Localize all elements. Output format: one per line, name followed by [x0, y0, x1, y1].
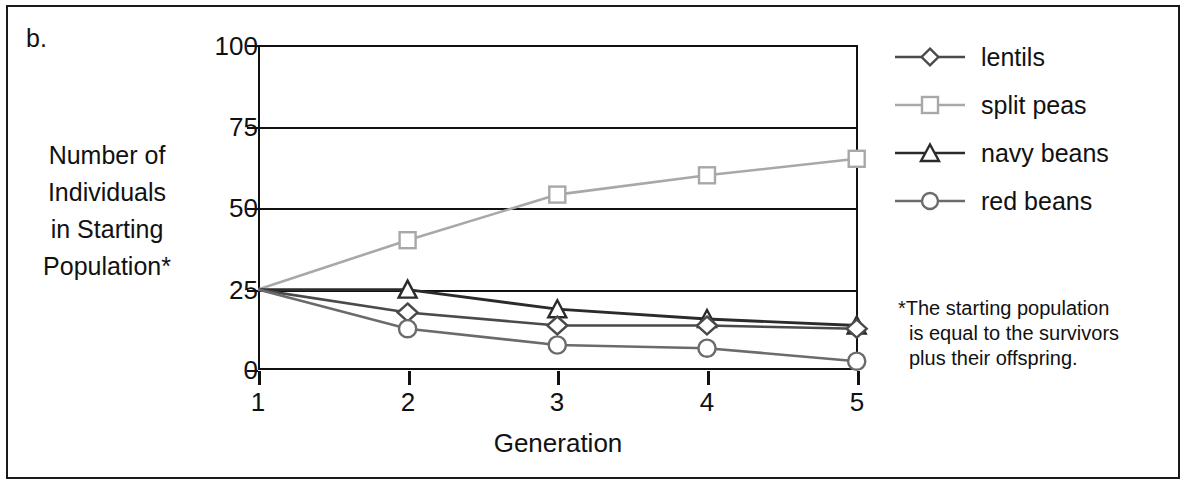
y-tick-mark-50 [247, 208, 258, 210]
legend-item-red-beans[interactable]: red beans [893, 177, 1163, 225]
figure-panel: b. Number of Individuals in Starting Pop… [0, 0, 1186, 486]
legend-label-red-beans: red beans [967, 187, 1092, 216]
x-tick-label-4: 4 [684, 387, 730, 418]
legend-label-split-peas: split peas [967, 91, 1087, 120]
series-line-split-peas [258, 159, 857, 290]
x-tick-mark-3 [557, 371, 560, 385]
chart-series-layer [258, 45, 858, 370]
footnote: *The starting population is equal to the… [898, 296, 1166, 371]
square-marker-icon [893, 93, 967, 117]
x-tick-label-5: 5 [834, 387, 880, 418]
y-tick-mark-100 [247, 45, 258, 47]
diamond-marker-icon [893, 45, 967, 69]
panel-label: b. [26, 24, 47, 53]
chart-legend: lentils split peas navy beans red beans [893, 33, 1163, 225]
legend-item-lentils[interactable]: lentils [893, 33, 1163, 81]
x-tick-label-1: 1 [235, 387, 281, 418]
x-tick-mark-5 [857, 371, 860, 385]
y-axis-title-line-3: in Starting [16, 211, 198, 248]
footnote-line-3: plus their offspring. [898, 346, 1166, 371]
y-tick-mark-75 [247, 127, 258, 129]
x-axis-title: Generation [258, 428, 858, 459]
footnote-line-1: *The starting population [898, 296, 1166, 321]
circle-marker-icon [893, 189, 967, 213]
legend-item-split-peas[interactable]: split peas [893, 81, 1163, 129]
y-tick-mark-0 [247, 370, 258, 372]
x-tick-label-3: 3 [534, 387, 580, 418]
y-axis-title-line-2: Individuals [16, 174, 198, 211]
plot-area [258, 45, 858, 370]
y-axis-title-line-4: Population* [16, 248, 198, 285]
legend-label-navy-beans: navy beans [967, 139, 1109, 168]
y-axis-title: Number of Individuals in Starting Popula… [16, 137, 198, 285]
x-tick-mark-1 [258, 371, 261, 385]
y-tick-mark-25 [247, 290, 258, 292]
legend-label-lentils: lentils [967, 43, 1045, 72]
triangle-marker-icon [893, 141, 967, 165]
legend-item-navy-beans[interactable]: navy beans [893, 129, 1163, 177]
y-axis-title-line-1: Number of [16, 137, 198, 174]
series-markers-lentils [398, 304, 867, 338]
footnote-line-2: is equal to the survivors [898, 321, 1166, 346]
x-tick-mark-4 [707, 371, 710, 385]
x-tick-mark-2 [408, 371, 411, 385]
x-tick-label-2: 2 [385, 387, 431, 418]
